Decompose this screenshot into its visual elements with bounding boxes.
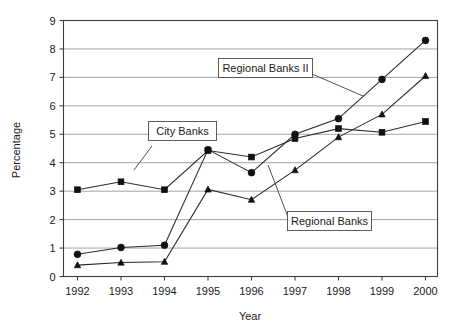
datapoint-regional-banks-ii-1995	[205, 146, 212, 153]
datapoint-city-banks-1992	[75, 187, 81, 193]
datapoint-regional-banks-ii-1996	[248, 169, 255, 176]
datapoint-regional-banks-ii-1998	[335, 115, 342, 122]
y-tick-label-6: 6	[49, 100, 55, 112]
y-tick-label-7: 7	[49, 71, 55, 83]
datapoint-regional-banks-ii-1993	[118, 244, 125, 251]
x-axis-title: Year	[239, 310, 262, 322]
y-tick-label-9: 9	[49, 15, 55, 27]
x-tick-label-1992: 1992	[65, 285, 89, 297]
annotation-regional-banks: Regional Banks	[268, 165, 372, 231]
datapoint-city-banks-1996	[249, 154, 255, 160]
y-tick-label-2: 2	[49, 214, 55, 226]
y-tick-label-1: 1	[49, 242, 55, 254]
datapoint-regional-banks-1995	[205, 186, 211, 192]
datapoint-city-banks-2000	[423, 119, 429, 125]
y-axis-title: Percentage	[10, 122, 22, 178]
x-axis-tick-group: 199219931994199519961997199819992000	[65, 277, 437, 297]
datapoint-regional-banks-ii-1997	[292, 131, 299, 138]
city-banks-leader-line	[134, 146, 152, 170]
x-tick-label-1998: 1998	[326, 285, 350, 297]
y-tick-label-5: 5	[49, 128, 55, 140]
y-tick-label-3: 3	[49, 185, 55, 197]
datapoint-regional-banks-ii-2000	[422, 37, 429, 44]
datapoint-regional-banks-ii-1999	[379, 76, 386, 83]
line-chart-figure: 0123456789 19921993199419951996199719981…	[0, 0, 455, 330]
x-tick-label-1997: 1997	[283, 285, 307, 297]
datapoint-city-banks-1994	[162, 187, 168, 193]
regional-banks-ii-callout-label: Regional Banks II	[222, 62, 308, 74]
datapoint-city-banks-1993	[118, 179, 124, 185]
datapoint-regional-banks-ii-1994	[161, 242, 168, 249]
x-tick-label-1993: 1993	[109, 285, 133, 297]
y-tick-label-8: 8	[49, 43, 55, 55]
x-tick-label-1999: 1999	[370, 285, 394, 297]
chart-canvas: 0123456789 19921993199419951996199719981…	[0, 0, 455, 330]
datapoint-regional-banks-ii-1992	[74, 251, 81, 258]
y-axis-tick-group: 0123456789	[49, 15, 63, 283]
datapoint-city-banks-1998	[336, 126, 342, 132]
regional-banks-callout-label: Regional Banks	[291, 215, 369, 227]
datapoint-city-banks-1999	[379, 129, 385, 135]
datapoint-regional-banks-1997	[292, 167, 298, 173]
y-tick-label-4: 4	[49, 157, 55, 169]
x-tick-label-1996: 1996	[239, 285, 263, 297]
x-tick-label-1994: 1994	[152, 285, 176, 297]
y-tick-label-0: 0	[49, 271, 55, 283]
x-tick-label-2000: 2000	[413, 285, 437, 297]
datapoint-regional-banks-2000	[422, 73, 428, 79]
city-banks-callout-label: City Banks	[156, 125, 209, 137]
x-tick-label-1995: 1995	[196, 285, 220, 297]
